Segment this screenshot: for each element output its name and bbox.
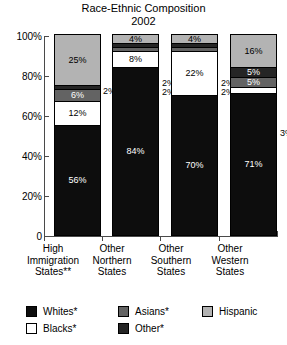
segment-hispanic[interactable]: 4% <box>113 35 158 43</box>
segment-other[interactable]: 5% <box>231 67 276 77</box>
bar-other-western-states[interactable]: 16% 5% 5% 71% <box>230 34 277 236</box>
segment-blacks[interactable]: 8% <box>113 51 158 67</box>
bar-other-northern-states[interactable]: 4% 8% 84% <box>112 34 159 236</box>
segment-label-asians: 6% <box>71 91 84 100</box>
category-line-3: States <box>138 266 204 278</box>
legend-label-blacks: Blacks* <box>43 323 76 334</box>
legend-item-blacks[interactable]: Blacks* <box>26 323 118 334</box>
y-tick-label-20: 20% <box>22 191 42 202</box>
segment-whites[interactable]: 56% <box>55 125 100 235</box>
legend-row-2: Blacks* Other* <box>26 320 266 337</box>
chart-container: Race-Ethnic Composition 2002 100% 80% 60… <box>0 0 287 345</box>
segment-whites[interactable]: 70% <box>172 95 217 235</box>
category-line-3: States <box>79 266 145 278</box>
segment-blacks[interactable]: 12% <box>55 101 100 125</box>
segment-whites[interactable]: 84% <box>113 67 158 235</box>
x-tick-2 <box>160 236 161 241</box>
category-line-2: Immigration <box>20 255 86 267</box>
legend-swatch-other-icon <box>118 323 129 334</box>
segment-label-blacks: 12% <box>68 109 86 118</box>
legend-label-asians: Asians* <box>135 306 169 317</box>
category-line-1: Other <box>138 243 204 255</box>
y-tick-label-40: 40% <box>22 151 42 162</box>
bar-high-immigration-states[interactable]: 25% 6% 12% 56% <box>54 34 101 236</box>
bar-other-southern-states[interactable]: 4% 22% 70% <box>171 34 218 236</box>
category-line-2: Western <box>197 255 263 267</box>
category-line-3: States** <box>20 266 86 278</box>
legend-swatch-whites-icon <box>26 306 37 317</box>
legend-item-whites[interactable]: Whites* <box>26 306 118 317</box>
category-label-other-southern-states: Other Southern States <box>138 243 204 278</box>
callout-blacks-bar3: 3% <box>280 129 287 138</box>
chart-subtitle: 2002 <box>0 15 287 28</box>
legend-swatch-hispanic-icon <box>202 306 213 317</box>
plot-area: 25% 6% 12% 56% 2% 4% 8% 84% <box>44 36 278 236</box>
category-line-1: High <box>20 243 86 255</box>
segment-asians[interactable]: 6% <box>55 89 100 101</box>
y-tick-label-80: 80% <box>22 71 42 82</box>
segment-label-asians: 5% <box>247 78 260 87</box>
category-label-other-western-states: Other Western States <box>197 243 263 278</box>
category-line-1: Other <box>79 243 145 255</box>
segment-label-whites: 71% <box>244 160 262 169</box>
legend-label-hispanic: Hispanic <box>219 306 257 317</box>
category-label-high-immigration-states: High Immigration States** <box>20 243 86 278</box>
segment-blacks[interactable]: 22% <box>172 51 217 95</box>
segment-hispanic[interactable]: 4% <box>172 35 217 43</box>
legend-row-1: Whites* Asians* Hispanic <box>26 303 266 320</box>
legend-swatch-asians-icon <box>118 306 129 317</box>
y-tick-label-60: 60% <box>22 111 42 122</box>
legend-swatch-blacks-icon <box>26 323 37 334</box>
segment-whites[interactable]: 71% <box>231 93 276 235</box>
chart-title: Race-Ethnic Composition <box>0 2 287 15</box>
segment-label-whites: 70% <box>185 161 203 170</box>
segment-label-whites: 56% <box>68 176 86 185</box>
y-tick-label-100: 100% <box>16 31 42 42</box>
segment-hispanic[interactable]: 16% <box>231 35 276 67</box>
segment-label-hispanic: 16% <box>244 47 262 56</box>
category-line-2: Southern <box>138 255 204 267</box>
x-tick-3 <box>219 236 220 241</box>
legend-item-hispanic[interactable]: Hispanic <box>202 306 257 317</box>
y-tick-label-0: 0 <box>36 231 42 242</box>
category-line-2: Northern <box>79 255 145 267</box>
x-tick-0 <box>44 236 45 241</box>
segment-asians[interactable]: 5% <box>231 77 276 87</box>
category-line-1: Other <box>197 243 263 255</box>
segment-label-blacks: 22% <box>185 69 203 78</box>
legend: Whites* Asians* Hispanic Blacks* Other* <box>26 303 266 337</box>
x-tick-1 <box>102 236 103 241</box>
x-axis-line <box>44 236 278 237</box>
segment-label-whites: 84% <box>126 147 144 156</box>
legend-item-other[interactable]: Other* <box>118 323 202 334</box>
segment-label-blacks: 8% <box>129 55 142 64</box>
category-line-3: States <box>197 266 263 278</box>
legend-item-asians[interactable]: Asians* <box>118 306 202 317</box>
chart-title-block: Race-Ethnic Composition 2002 <box>0 2 287 28</box>
segment-label-hispanic: 25% <box>68 56 86 65</box>
segment-label-other: 5% <box>247 68 260 77</box>
legend-label-whites: Whites* <box>43 306 77 317</box>
category-label-other-northern-states: Other Northern States <box>79 243 145 278</box>
segment-hispanic[interactable]: 25% <box>55 35 100 85</box>
legend-label-other: Other* <box>135 323 164 334</box>
